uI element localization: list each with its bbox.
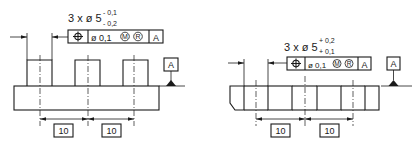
position-icon bbox=[73, 32, 83, 42]
left-dim-2: 10 bbox=[106, 126, 116, 136]
reciprocity-modifier-icon: R bbox=[134, 32, 143, 41]
pins bbox=[27, 60, 148, 86]
right-upper-tolerance: + 0,2 bbox=[319, 37, 335, 44]
left-callout-prefix: 3 x ø 5 bbox=[68, 12, 102, 24]
reciprocity-modifier-icon: R bbox=[345, 60, 353, 68]
left-dimensions: 10 10 bbox=[40, 119, 134, 137]
svg-text:R: R bbox=[135, 33, 140, 40]
svg-text:A: A bbox=[168, 60, 174, 70]
right-feature-control-frame: ø 0,1 M R A bbox=[287, 57, 371, 70]
position-icon bbox=[291, 59, 301, 69]
right-position-tolerance: ø 0,1 bbox=[308, 61, 327, 70]
base-plate bbox=[14, 86, 159, 110]
right-frame-datum: A bbox=[361, 60, 367, 70]
svg-text:M: M bbox=[122, 33, 128, 40]
right-datum-feature: A bbox=[381, 57, 412, 86]
left-size-callout: 3 x ø 5 - 0,1 - 0,2 bbox=[68, 9, 117, 27]
right-dim-2: 10 bbox=[324, 126, 334, 136]
left-dim-1: 10 bbox=[58, 126, 68, 136]
left-frame-datum: A bbox=[153, 33, 159, 43]
svg-text:R: R bbox=[347, 60, 352, 67]
right-callout-prefix: 3 x ø 5 bbox=[284, 41, 318, 53]
svg-text:M: M bbox=[334, 60, 339, 67]
plate-section bbox=[230, 86, 379, 110]
max-material-modifier-icon: M bbox=[333, 60, 341, 68]
left-datum-feature: A bbox=[159, 58, 185, 86]
max-material-modifier-icon: M bbox=[121, 32, 130, 41]
right-dim-1: 10 bbox=[275, 126, 285, 136]
tolerance-diagram: 3 x ø 5 - 0,1 - 0,2 ø 0,1 M R A bbox=[0, 0, 418, 146]
left-position-tolerance: ø 0,1 bbox=[91, 33, 112, 43]
right-size-callout: 3 x ø 5 + 0,2 + 0,1 bbox=[284, 37, 335, 55]
right-dimensions: 10 10 bbox=[256, 119, 353, 137]
svg-text:A: A bbox=[390, 59, 396, 69]
right-lower-tolerance: + 0,1 bbox=[319, 48, 335, 55]
left-drawing: 3 x ø 5 - 0,1 - 0,2 ø 0,1 M R A bbox=[10, 9, 185, 137]
left-lower-tolerance: - 0,2 bbox=[103, 20, 117, 27]
left-upper-tolerance: - 0,1 bbox=[103, 9, 117, 16]
right-drawing: 3 x ø 5 + 0,2 + 0,1 ø 0,1 M R A bbox=[228, 37, 412, 137]
left-feature-control-frame: ø 0,1 M R A bbox=[68, 30, 163, 43]
